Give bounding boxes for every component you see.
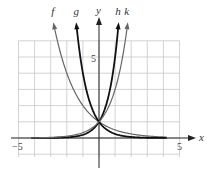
curve-f-arrow-icon bbox=[52, 22, 57, 29]
y-axis-label: y bbox=[95, 4, 101, 16]
curve-g bbox=[77, 26, 167, 138]
curve-label-g: g bbox=[74, 5, 80, 17]
x-tick-min: −5 bbox=[12, 141, 23, 152]
axes: x y −5 5 5 bbox=[11, 4, 204, 168]
curve-g-arrow-icon bbox=[74, 22, 79, 29]
curve-f bbox=[54, 26, 166, 137]
x-tick-max: 5 bbox=[177, 141, 182, 152]
curve-h bbox=[31, 26, 118, 138]
y-axis-arrow-icon bbox=[96, 17, 102, 25]
curve-label-k: k bbox=[124, 5, 130, 17]
curve-label-h: h bbox=[115, 5, 121, 17]
exponential-functions-chart: x y −5 5 5 fghk bbox=[0, 0, 215, 172]
curve-label-f: f bbox=[51, 5, 56, 17]
curve-k-arrow-icon bbox=[124, 22, 129, 29]
y-tick-5: 5 bbox=[91, 53, 96, 64]
x-axis-label: x bbox=[198, 131, 204, 143]
curve-h-arrow-icon bbox=[116, 22, 121, 29]
curve-labels: fghk bbox=[51, 5, 130, 17]
x-axis-arrow-icon bbox=[188, 135, 196, 141]
